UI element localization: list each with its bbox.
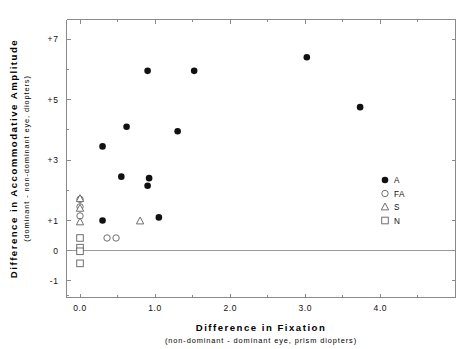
- series-A: [99, 54, 363, 224]
- data-point-filled-circle[interactable]: [99, 217, 106, 224]
- x-tick-label: 0.0: [73, 303, 87, 313]
- data-point-open-circle[interactable]: [104, 235, 110, 241]
- y-tick-label: +7: [48, 34, 59, 44]
- x-axis-title: Difference in Fixation: [196, 322, 327, 333]
- x-tick-label: 1.0: [148, 303, 162, 313]
- series-S: [76, 195, 143, 225]
- data-point-filled-circle[interactable]: [304, 54, 311, 61]
- legend-marker-open-circle[interactable]: [382, 190, 388, 196]
- series-N: [77, 235, 84, 267]
- data-point-open-square[interactable]: [77, 248, 84, 255]
- data-point-filled-circle[interactable]: [146, 175, 153, 182]
- y-tick-label: 0: [53, 246, 58, 256]
- data-point-open-square[interactable]: [77, 235, 84, 242]
- data-point-open-triangle[interactable]: [76, 218, 83, 225]
- data-point-filled-circle[interactable]: [99, 143, 106, 150]
- data-point-filled-circle[interactable]: [118, 173, 125, 180]
- legend-marker-filled-circle[interactable]: [382, 177, 389, 184]
- data-point-open-square[interactable]: [77, 260, 84, 267]
- y-tick-label: -1: [50, 276, 59, 286]
- data-point-filled-circle[interactable]: [144, 182, 151, 189]
- x-tick-label: 3.0: [298, 303, 312, 313]
- data-point-filled-circle[interactable]: [123, 123, 130, 130]
- y-axis-title: Difference in Accommodative Amplitude: [8, 39, 19, 278]
- data-point-open-circle[interactable]: [113, 235, 119, 241]
- y-tick-label: +3: [48, 155, 59, 165]
- legend-label: S: [394, 203, 400, 212]
- data-point-open-triangle[interactable]: [136, 217, 143, 224]
- data-point-filled-circle[interactable]: [191, 68, 198, 75]
- scatter-plot-figure: 0.01.02.03.04.0+7+5+3+10-1Difference in …: [0, 0, 468, 349]
- legend-label: N: [394, 217, 400, 226]
- legend-marker-open-square[interactable]: [382, 217, 389, 224]
- y-tick-label: +5: [48, 95, 59, 105]
- plot-frame: [67, 20, 456, 298]
- x-axis-subtitle: (non-dominant - dominant eye, prism diop…: [165, 336, 357, 345]
- y-axis-subtitle: (dominant - non-dominant eye, diopters): [22, 75, 31, 242]
- legend-label: FA: [394, 190, 405, 199]
- x-tick-label: 2.0: [223, 303, 237, 313]
- y-tick-label: +1: [48, 216, 59, 226]
- data-point-filled-circle[interactable]: [174, 128, 181, 135]
- data-point-filled-circle[interactable]: [357, 104, 364, 111]
- legend-marker-open-triangle[interactable]: [381, 203, 388, 210]
- legend-label: A: [394, 176, 400, 185]
- data-point-filled-circle[interactable]: [144, 68, 151, 75]
- data-point-filled-circle[interactable]: [156, 214, 163, 221]
- chart-canvas: 0.01.02.03.04.0+7+5+3+10-1Difference in …: [0, 0, 468, 349]
- legend: AFASN: [381, 176, 405, 226]
- x-tick-label: 4.0: [374, 303, 388, 313]
